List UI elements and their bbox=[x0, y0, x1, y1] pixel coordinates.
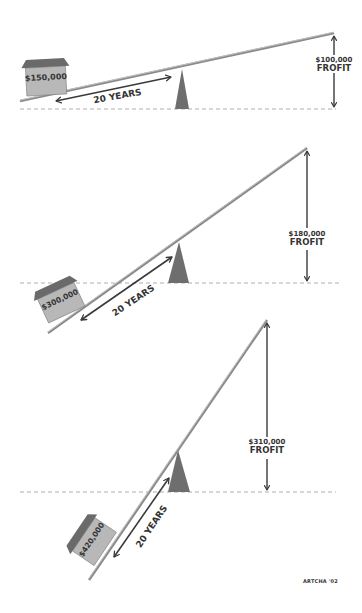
fulcrum-icon bbox=[168, 242, 189, 283]
lever-beam bbox=[48, 147, 308, 333]
years-label: 20 YEARS bbox=[93, 87, 143, 105]
fulcrum-icon bbox=[168, 450, 190, 492]
lever-beam bbox=[88, 320, 267, 581]
years-label: 20 YEARS bbox=[134, 503, 170, 549]
panel-2: $300,000 20 YEARS $180,000 FROFIT bbox=[20, 147, 340, 333]
artist-credit: ARTCHA '02 bbox=[303, 578, 338, 584]
house-icon: $420,000 bbox=[64, 510, 119, 569]
leverage-diagram: $150,000 20 YEARS $100,000 FROFIT $300,0… bbox=[0, 0, 362, 613]
house-icon: $300,000 bbox=[31, 274, 89, 325]
years-label: 20 YEARS bbox=[110, 283, 156, 319]
profit-label: FROFIT bbox=[317, 63, 352, 73]
fulcrum-icon bbox=[175, 69, 189, 109]
panel-3: $420,000 20 YEARS $310,000 FROFIT bbox=[20, 320, 336, 581]
house-icon: $150,000 bbox=[21, 58, 71, 96]
panel-1: $150,000 20 YEARS $100,000 FROFIT bbox=[20, 32, 353, 109]
profit-label: FROFIT bbox=[250, 445, 285, 455]
profit-label: FROFIT bbox=[290, 237, 325, 247]
lever-beam bbox=[20, 32, 334, 101]
